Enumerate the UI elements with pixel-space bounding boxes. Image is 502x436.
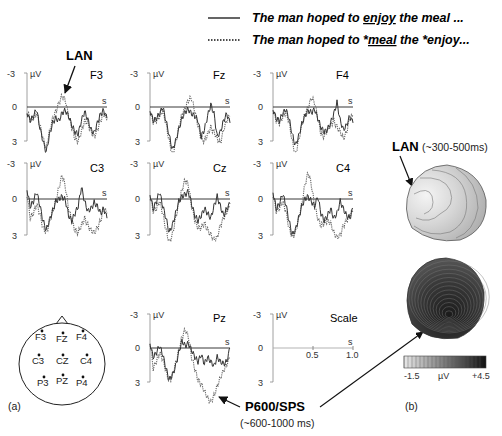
erp-panels: -303µVs-303µVs-303µVs-303µVs-303µVs-303µ… bbox=[7, 69, 353, 403]
y-tick-pos: 3 bbox=[135, 231, 140, 241]
unit-label: µV bbox=[30, 69, 41, 79]
colorbar-max: +4.5 bbox=[472, 371, 490, 381]
y-tick-pos: 3 bbox=[135, 137, 140, 147]
y-tick-zero: 0 bbox=[135, 194, 140, 204]
y-tick-neg: -3 bbox=[7, 69, 15, 79]
lan-map-arrow bbox=[400, 156, 412, 186]
unit-label: µV bbox=[276, 69, 287, 79]
y-tick-zero: 0 bbox=[258, 194, 263, 204]
panel-label-b: (b) bbox=[405, 400, 418, 412]
time-unit: s bbox=[102, 188, 107, 198]
lan-arrow bbox=[65, 66, 75, 93]
p600-window: (~600-1000 ms) bbox=[240, 417, 314, 429]
time-unit: s bbox=[225, 337, 230, 347]
y-tick-pos: 3 bbox=[258, 231, 263, 241]
channel-label-fz: Fz bbox=[213, 69, 225, 81]
scale-tick-1-0: 1.0 bbox=[346, 350, 359, 360]
erp-panel-f3: -303µVs bbox=[7, 69, 107, 152]
time-unit: s bbox=[102, 96, 107, 106]
lan-topomap bbox=[406, 165, 486, 241]
channel-label-c4: C4 bbox=[336, 162, 350, 174]
y-tick-pos: 3 bbox=[258, 137, 263, 147]
channel-label-pz: Pz bbox=[213, 312, 226, 324]
erp-panel-f4: -303µVs bbox=[253, 69, 353, 152]
y-tick-neg: -3 bbox=[130, 310, 138, 320]
electrode-label-fz: FZ bbox=[56, 333, 68, 344]
channel-label-c3: C3 bbox=[90, 162, 104, 174]
y-tick-zero: 0 bbox=[135, 102, 140, 112]
y-tick-neg: -3 bbox=[130, 69, 138, 79]
y-tick-neg: -3 bbox=[7, 159, 15, 169]
time-unit: s bbox=[348, 337, 353, 347]
electrode-label-f3: F3 bbox=[35, 331, 46, 342]
channel-label-scale: Scale bbox=[330, 312, 358, 324]
time-unit: s bbox=[348, 188, 353, 198]
time-unit: s bbox=[225, 96, 230, 106]
p600-topomap bbox=[407, 258, 489, 339]
y-tick-zero: 0 bbox=[12, 102, 17, 112]
time-unit: s bbox=[225, 188, 230, 198]
y-tick-zero: 0 bbox=[258, 102, 263, 112]
y-tick-neg: -3 bbox=[253, 159, 261, 169]
y-tick-zero: 0 bbox=[135, 343, 140, 353]
y-tick-zero: 0 bbox=[12, 194, 17, 204]
electrode-label-p3: P3 bbox=[37, 377, 49, 388]
legend-solid-label: The man hoped to enjoy the meal ... bbox=[252, 11, 464, 25]
y-tick-pos: 3 bbox=[12, 231, 17, 241]
lan-map-annotation: LAN bbox=[392, 139, 419, 154]
legend: The man hoped to enjoy the meal ... The … bbox=[208, 11, 470, 47]
y-tick-neg: -3 bbox=[253, 310, 261, 320]
electrode-label-c4: C4 bbox=[80, 355, 92, 366]
y-tick-pos: 3 bbox=[135, 378, 140, 388]
lan-annotation: LAN bbox=[66, 48, 93, 63]
unit-label: µV bbox=[153, 159, 164, 169]
electrode-label-cz: CZ bbox=[56, 355, 69, 366]
electrode-label-p4: P4 bbox=[76, 377, 88, 388]
lan-map-window: (~300-500ms) bbox=[422, 141, 488, 153]
electrode-label-pz: PZ bbox=[56, 375, 68, 386]
unit-label: µV bbox=[153, 310, 164, 320]
unit-label: µV bbox=[30, 159, 41, 169]
y-tick-pos: 3 bbox=[258, 378, 263, 388]
p600-arrow-map bbox=[320, 332, 423, 407]
electrode-label-c3: C3 bbox=[32, 355, 44, 366]
colorbar-unit: µV bbox=[438, 371, 449, 381]
erp-panel-fz: -303µVs bbox=[130, 69, 230, 152]
unit-label: µV bbox=[153, 69, 164, 79]
waveform-control bbox=[150, 189, 230, 232]
channel-label-f4: F4 bbox=[336, 69, 349, 81]
y-tick-zero: 0 bbox=[258, 343, 263, 353]
time-unit: s bbox=[348, 96, 353, 106]
waveform-violation bbox=[150, 96, 230, 152]
y-tick-neg: -3 bbox=[130, 159, 138, 169]
y-tick-pos: 3 bbox=[12, 137, 17, 147]
electrode-label-f4: F4 bbox=[76, 331, 87, 342]
waveform-control bbox=[27, 108, 107, 152]
figure-canvas: The man hoped to enjoy the meal ... The … bbox=[0, 0, 502, 436]
electrode-head-map: F3FZF4C3CZC4P3PZP4 bbox=[19, 316, 105, 405]
channel-label-cz: Cz bbox=[213, 162, 226, 174]
y-tick-neg: -3 bbox=[253, 69, 261, 79]
legend-dotted-label: The man hoped to *meal the *enjoy... bbox=[252, 33, 470, 47]
scale-tick-0-5: 0.5 bbox=[306, 350, 319, 360]
panel-label-a: (a) bbox=[8, 400, 21, 412]
channel-label-f3: F3 bbox=[90, 69, 103, 81]
colorbar: -1.5 µV +4.5 bbox=[404, 356, 490, 381]
p600-arrow-waveform bbox=[219, 397, 240, 407]
colorbar-min: -1.5 bbox=[404, 371, 420, 381]
p600-annotation: P600/SPS bbox=[245, 399, 305, 414]
waveform-violation bbox=[150, 179, 230, 241]
unit-label: µV bbox=[276, 310, 287, 320]
waveform-violation bbox=[150, 329, 230, 403]
unit-label: µV bbox=[276, 159, 287, 169]
